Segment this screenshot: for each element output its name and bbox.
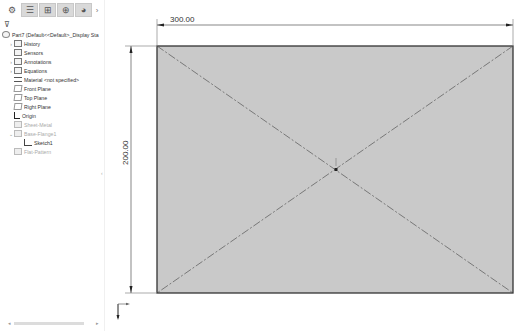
reference-triad-icon — [117, 303, 131, 320]
dimension-height[interactable]: 200.00 — [121, 140, 130, 165]
graphics-area[interactable]: 300.00 200.00 — [0, 0, 522, 331]
dimension-width[interactable]: 300.00 — [170, 15, 195, 24]
arrowhead-icon — [157, 24, 164, 27]
arrowhead-icon — [506, 24, 513, 27]
arrowhead-icon — [130, 46, 133, 53]
arrowhead-icon — [130, 286, 133, 293]
center-point[interactable] — [335, 168, 338, 171]
